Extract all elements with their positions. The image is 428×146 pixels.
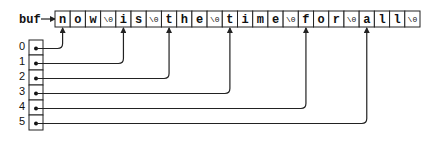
- svg-text:\0: \0: [103, 15, 113, 24]
- pointer-index: 3: [19, 85, 25, 97]
- pointer-arrow: [36, 28, 169, 79]
- svg-text:o: o: [318, 13, 325, 27]
- buffer-cell: t: [222, 11, 237, 27]
- svg-text:\0: \0: [149, 15, 159, 24]
- pointer-array: 012345: [19, 40, 43, 130]
- pointer-index: 4: [19, 100, 25, 112]
- buffer-cells: now\0is\0the\0time\0for\0all\0: [55, 11, 420, 27]
- buffer-cell: \0: [344, 11, 359, 27]
- svg-text:f: f: [302, 13, 309, 27]
- pointer-arrows: [36, 28, 367, 124]
- buffer-cell: m: [253, 11, 268, 27]
- svg-text:e: e: [196, 13, 203, 27]
- buffer-cell: e: [268, 11, 283, 27]
- svg-text:\0: \0: [286, 15, 296, 24]
- svg-text:r: r: [333, 13, 340, 27]
- buffer-cell: o: [314, 11, 329, 27]
- buffer-cell: t: [161, 11, 176, 27]
- svg-text:h: h: [181, 13, 188, 27]
- svg-text:o: o: [74, 13, 81, 27]
- buffer-cell: l: [374, 11, 389, 27]
- buffer-cell: r: [329, 11, 344, 27]
- svg-text:\0: \0: [347, 15, 357, 24]
- buffer-cell: i: [238, 11, 253, 27]
- pointer-arrow: [36, 28, 230, 94]
- buffer-cell: l: [390, 11, 405, 27]
- pointer-index: 0: [19, 40, 25, 52]
- svg-text:l: l: [394, 13, 401, 27]
- svg-text:l: l: [378, 13, 385, 27]
- pointer-arrow: [36, 28, 367, 124]
- buffer-cell: h: [177, 11, 192, 27]
- buffer-cell: i: [116, 11, 131, 27]
- buffer-cell: o: [70, 11, 85, 27]
- svg-text:s: s: [135, 13, 142, 27]
- svg-text:i: i: [242, 13, 249, 27]
- pointer-arrow: [36, 28, 306, 109]
- svg-text:a: a: [363, 13, 370, 27]
- svg-text:t: t: [165, 13, 172, 27]
- buffer-cell: e: [192, 11, 207, 27]
- svg-text:\0: \0: [408, 15, 418, 24]
- buffer-cell: f: [298, 11, 313, 27]
- svg-text:\0: \0: [210, 15, 220, 24]
- svg-text:i: i: [120, 13, 127, 27]
- pointer-arrow: [36, 28, 123, 64]
- buffer-cell: \0: [283, 11, 298, 27]
- buffer-cell: w: [85, 11, 100, 27]
- buffer-cell: n: [55, 11, 70, 27]
- svg-text:w: w: [89, 13, 97, 27]
- buffer-cell: a: [359, 11, 374, 27]
- svg-text:t: t: [226, 13, 233, 27]
- buffer-cell: \0: [101, 11, 116, 27]
- pointer-index: 2: [19, 70, 25, 82]
- buffer-cell: \0: [207, 11, 222, 27]
- svg-text:e: e: [272, 13, 279, 27]
- buf-label: buf: [19, 13, 41, 27]
- svg-text:m: m: [257, 13, 264, 27]
- buffer-cell: \0: [405, 11, 420, 27]
- buffer-cell: \0: [146, 11, 161, 27]
- svg-text:n: n: [59, 13, 66, 27]
- pointer-index: 5: [19, 115, 25, 127]
- buffer-cell: s: [131, 11, 146, 27]
- string-array-diagram: buf now\0is\0the\0time\0for\0all\0 01234…: [0, 0, 428, 146]
- pointer-index: 1: [19, 55, 25, 67]
